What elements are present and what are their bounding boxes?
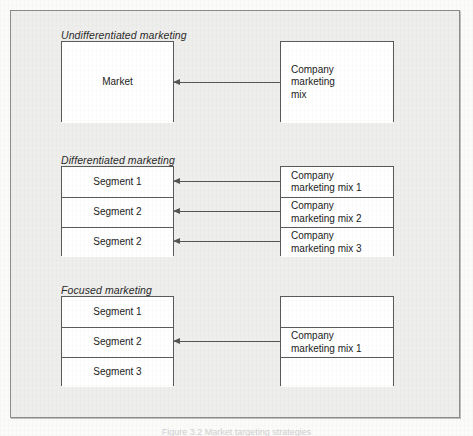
box-row-label: Segment 1 bbox=[93, 176, 141, 189]
box-row: Segment 1 bbox=[62, 297, 173, 327]
box-row-label: Segment 3 bbox=[93, 366, 141, 379]
section-label: Differentiated marketing bbox=[61, 154, 175, 166]
box-row-label: Segment 2 bbox=[93, 336, 141, 349]
box-row-label: Segment 1 bbox=[93, 306, 141, 319]
section-label: Undifferentiated marketing bbox=[61, 29, 187, 41]
flow-arrow bbox=[174, 211, 280, 212]
section-1: Differentiated marketingSegment 1Segment… bbox=[11, 166, 459, 256]
box-row: Company marketing mix bbox=[281, 42, 393, 123]
figure-page: Undifferentiated marketingMarketCompany … bbox=[0, 0, 473, 436]
box-row-label: Company marketing mix 3 bbox=[291, 230, 362, 255]
box-row-label: Company marketing mix 1 bbox=[291, 330, 362, 355]
box-row: Segment 3 bbox=[62, 357, 173, 387]
section-2: Focused marketingSegment 1Segment 2Segme… bbox=[11, 296, 459, 386]
flow-arrow bbox=[174, 82, 280, 83]
flow-arrow bbox=[174, 241, 280, 242]
box-row-label: Segment 2 bbox=[93, 236, 141, 249]
box-row: Segment 2 bbox=[62, 327, 173, 357]
box-row-label: Company marketing mix 1 bbox=[291, 170, 362, 195]
segments-box: Segment 1Segment 2Segment 2 bbox=[61, 166, 174, 256]
company-marketing-mix-box: Company marketing mix bbox=[280, 41, 394, 122]
marketing-mix-box: Company marketing mix 1 bbox=[280, 296, 394, 386]
box-row: Company marketing mix 1 bbox=[281, 167, 393, 197]
box-row: Segment 2 bbox=[62, 197, 173, 227]
box-row bbox=[281, 297, 393, 327]
box-row-label: Company marketing mix bbox=[291, 64, 335, 102]
box-row: Company marketing mix 2 bbox=[281, 197, 393, 227]
flow-arrow bbox=[174, 181, 280, 182]
box-row: Segment 1 bbox=[62, 167, 173, 197]
flow-arrow bbox=[174, 341, 280, 342]
box-row-label: Segment 2 bbox=[93, 206, 141, 219]
segments-box: Segment 1Segment 2Segment 3 bbox=[61, 296, 174, 386]
section-0: Undifferentiated marketingMarketCompany … bbox=[11, 41, 459, 122]
box-row: Market bbox=[62, 42, 173, 123]
box-row: Segment 2 bbox=[62, 227, 173, 257]
box-row-label: Market bbox=[102, 76, 133, 89]
box-row-label: Company marketing mix 2 bbox=[291, 200, 362, 225]
box-row: Company marketing mix 1 bbox=[281, 327, 393, 357]
box-row: Company marketing mix 3 bbox=[281, 227, 393, 257]
section-label: Focused marketing bbox=[61, 284, 152, 296]
market-box: Market bbox=[61, 41, 174, 122]
diagram-frame: Undifferentiated marketingMarketCompany … bbox=[10, 10, 460, 418]
marketing-mixes-box: Company marketing mix 1Company marketing… bbox=[280, 166, 394, 256]
figure-caption: Figure 3.2 Market targeting strategies bbox=[0, 427, 473, 436]
box-row bbox=[281, 357, 393, 387]
